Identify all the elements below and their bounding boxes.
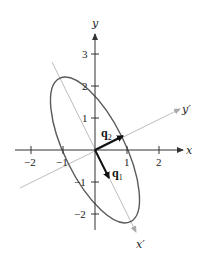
y-tick-label: 1: [82, 112, 88, 124]
vectors: q1 q2: [95, 126, 123, 182]
x-prime-label: x′: [136, 238, 145, 251]
y-tick-label: 3: [82, 48, 88, 60]
x-tick-label: 2: [156, 156, 162, 168]
ellipse-diagram: x′ y′ x y −2 −1 1 2 3 2 1: [0, 0, 201, 261]
q2-label: q2: [101, 126, 112, 142]
y-prime-label: y′: [181, 103, 191, 116]
y-axis-label: y: [91, 17, 99, 30]
y-tick-label: −1: [74, 176, 86, 188]
x-tick-label: −1: [56, 156, 68, 168]
q1-vector: [95, 150, 109, 178]
x-prime-axis: [52, 62, 136, 232]
y-tick-label: 2: [82, 80, 88, 92]
rotated-axes: x′ y′: [20, 62, 191, 251]
x-ticks: −2 −1 1 2: [24, 146, 162, 168]
x-tick-label: −2: [24, 156, 36, 168]
x-axis-label: x: [186, 144, 193, 157]
x-tick-label: 1: [124, 156, 130, 168]
main-axes: x y −2 −1 1 2 3 2 1 −1 −2: [15, 17, 193, 230]
y-tick-label: −2: [74, 208, 86, 220]
q1-label: q1: [112, 166, 123, 182]
